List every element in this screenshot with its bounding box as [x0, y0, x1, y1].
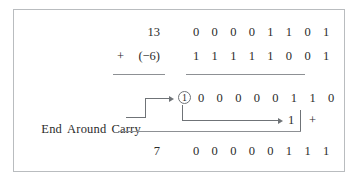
carry-out-circled: 1	[178, 91, 191, 104]
carry-add-operator: +	[309, 114, 316, 127]
addend-sign: +	[117, 50, 124, 63]
eac-word-end: End	[41, 122, 62, 136]
augend-decimal: 13	[120, 26, 160, 39]
connector-a-segment-horizontal-upper	[145, 98, 169, 99]
eac-word-carry: Carry	[111, 122, 140, 136]
end-around-carry-label: EndAroundCarry	[28, 110, 141, 148]
carry-add-value: 1	[288, 114, 294, 127]
intermediate-binary: 0 0 0 0 0 1 1 0	[198, 92, 339, 105]
decimal-rule-top	[113, 74, 165, 75]
connector-b-segment-horizontal	[182, 120, 278, 121]
connector-b-segment-vertical	[182, 105, 183, 120]
connector-b-arrowhead-icon	[278, 118, 283, 124]
carry-add-bracket	[300, 110, 301, 131]
result-binary: 0 0 0 0 0 1 1 1	[193, 145, 334, 158]
eac-word-around: Around	[67, 122, 106, 136]
addend-decimal: (−6)	[128, 50, 160, 63]
addend-binary: 1 1 1 1 1 0 0 1	[193, 50, 334, 63]
end-around-carry-figure: 13 0 0 0 0 1 1 0 1 + (−6) 1 1 1 1 1 0 0 …	[0, 0, 358, 182]
connector-a-segment-horizontal-lower	[126, 117, 145, 118]
augend-binary: 0 0 0 0 1 1 0 1	[193, 26, 334, 39]
result-decimal: 7	[120, 145, 160, 158]
connector-a-arrowhead-icon	[169, 96, 174, 102]
connector-a-segment-vertical	[145, 98, 146, 118]
binary-rule-top	[186, 74, 305, 75]
result-rule	[118, 131, 301, 132]
